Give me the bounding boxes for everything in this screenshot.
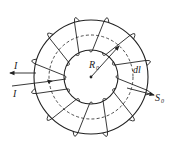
coil-turn [73,102,93,136]
current-in-lead [12,81,52,86]
label-current-out: I [13,60,18,71]
label-area: S [155,92,160,103]
coil-turn [113,89,135,121]
label-line-element: dl [133,64,141,75]
area-normal-arrow [127,88,154,95]
coil-turn [74,18,79,56]
toroid-diagram: I I R 0 dl S 0 [0,0,176,155]
coil-turn [103,33,135,55]
label-current-in: I [12,88,17,99]
label-radius: R [88,59,95,70]
label-radius-sub: 0 [96,65,99,71]
label-area-sub: 0 [161,98,164,104]
coil-turn [47,33,69,65]
coil-turn [32,89,70,94]
coil-turn [47,99,79,121]
